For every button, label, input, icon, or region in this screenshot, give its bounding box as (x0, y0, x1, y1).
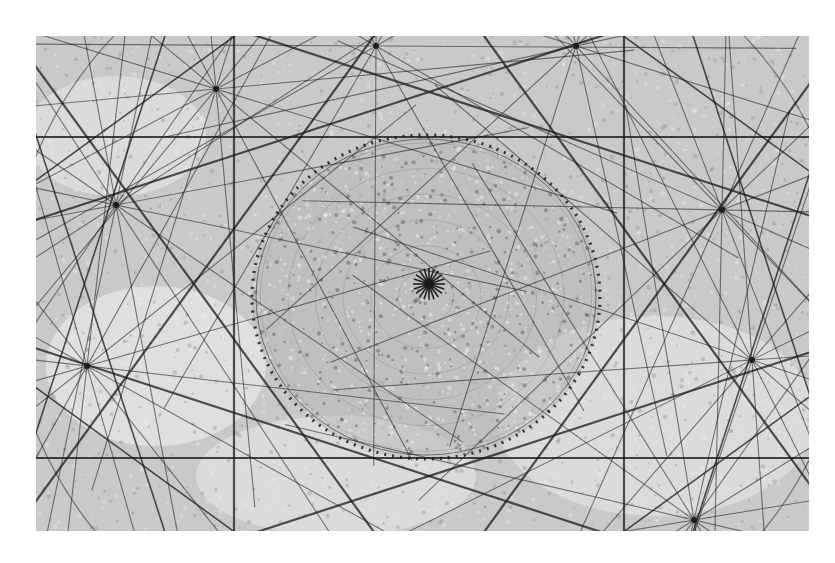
diffraction-pattern-image (36, 36, 809, 531)
pattern-canvas (36, 36, 809, 531)
figure-caption (36, 556, 809, 563)
